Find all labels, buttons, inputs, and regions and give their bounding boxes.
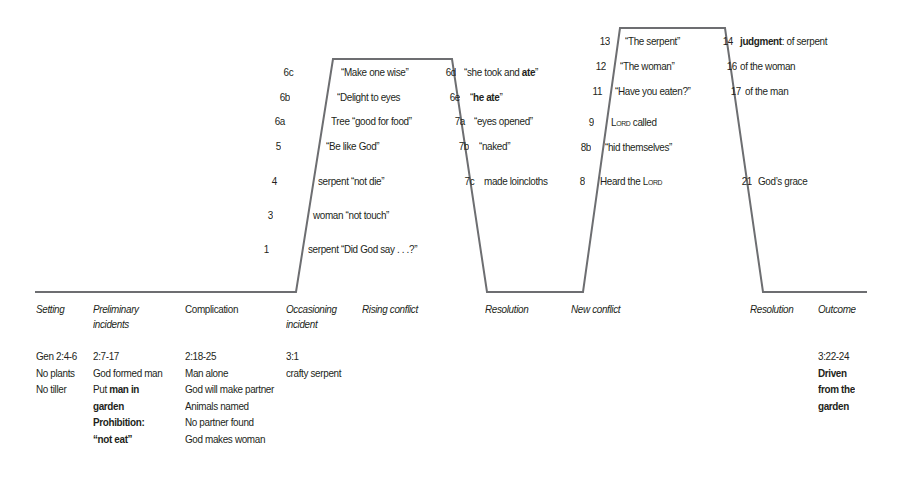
complication-line: God will make partner: [185, 381, 274, 398]
preliminary-line: “not eat”: [93, 431, 162, 448]
event-label: God’s grace: [758, 174, 807, 188]
occasioning-line: crafty serpent: [286, 365, 341, 382]
verse-number: 4: [272, 174, 277, 188]
verse-number: 13: [600, 34, 610, 48]
stage-occasioning-incident: Occasioning incident: [286, 302, 341, 332]
verse-number: 5: [276, 139, 281, 153]
stage-setting: Setting: [36, 302, 64, 317]
complication-line: God makes woman: [185, 431, 274, 448]
verse-number: 16: [727, 59, 737, 73]
verse-number: 7a: [455, 114, 465, 128]
verse-number: 14: [723, 34, 733, 48]
event-label: of the woman: [740, 59, 795, 73]
preliminary-ref: 2:7-17: [93, 348, 162, 365]
event-label: “he ate”: [470, 90, 502, 104]
verse-number: 6d: [446, 65, 456, 79]
setting-column: Gen 2:4-6 No plants No tiller: [36, 348, 77, 398]
event-label: Heard the Lord: [600, 174, 662, 188]
verse-number: 6b: [280, 90, 290, 104]
preliminary-line: Prohibition:: [93, 414, 162, 431]
verse-number: 12: [596, 59, 606, 73]
verse-number: 21: [742, 174, 752, 188]
event-label: “eyes opened”: [474, 114, 533, 128]
verse-number: 7c: [464, 174, 474, 188]
verse-number: 1: [264, 242, 269, 256]
event-label: “Have you eaten?”: [615, 84, 691, 98]
outcome-column: 3:22-24 Driven from the garden: [818, 348, 855, 414]
verse-number: 8b: [581, 140, 591, 154]
event-label: serpent “Did God say . . .?”: [308, 242, 417, 256]
stage-outcome: Outcome: [818, 302, 856, 317]
stage-complication: Complication: [185, 302, 238, 317]
occasioning-column: 3:1 crafty serpent: [286, 348, 341, 381]
event-label: “hid themselves”: [605, 140, 672, 154]
event-label: Lord called: [611, 115, 657, 129]
outcome-line: from the: [818, 381, 855, 398]
verse-number: 17: [731, 84, 741, 98]
event-label: of the man: [745, 84, 788, 98]
setting-ref: Gen 2:4-6: [36, 348, 77, 365]
occasioning-ref: 3:1: [286, 348, 341, 365]
outcome-line: garden: [818, 398, 855, 415]
event-label: “Make one wise”: [341, 65, 408, 79]
event-label: serpent “not die”: [318, 174, 384, 188]
event-label: “she took and ate”: [464, 65, 538, 79]
complication-line: Animals named: [185, 398, 274, 415]
complication-line: No partner found: [185, 414, 274, 431]
event-label: “The woman”: [620, 59, 674, 73]
stage-preliminary-incidents: Preliminary incidents: [93, 302, 146, 332]
verse-number: 3: [268, 208, 273, 222]
event-label: “Be like God”: [326, 139, 379, 153]
verse-number: 6c: [283, 65, 293, 79]
verse-number: 7b: [459, 139, 469, 153]
preliminary-line: garden: [93, 398, 162, 415]
stage-resolution-final: Resolution: [750, 302, 793, 317]
setting-line: No tiller: [36, 381, 77, 398]
stage-new-conflict: New conflict: [571, 302, 620, 317]
event-label: made loincloths: [484, 174, 548, 188]
preliminary-column: 2:7-17 God formed man Put man in garden …: [93, 348, 162, 447]
verse-number: 6a: [275, 114, 285, 128]
preliminary-line: Put man in: [93, 381, 162, 398]
event-label: judgment: of serpent: [740, 34, 827, 48]
stage-resolution: Resolution: [485, 302, 528, 317]
outcome-ref: 3:22-24: [818, 348, 855, 365]
event-label: “naked”: [479, 139, 510, 153]
setting-line: No plants: [36, 365, 77, 382]
verse-number: 9: [589, 115, 594, 129]
stage-rising-conflict: Rising conflict: [362, 302, 418, 317]
event-label: woman “not touch”: [313, 208, 389, 222]
verse-number: 11: [592, 84, 602, 98]
event-label: “Delight to eyes: [337, 90, 400, 104]
plot-structure-diagram: 6c “Make one wise” 6b “Delight to eyes 6…: [0, 0, 897, 498]
complication-ref: 2:18-25: [185, 348, 274, 365]
preliminary-line: God formed man: [93, 365, 162, 382]
outcome-line: Driven: [818, 365, 855, 382]
verse-number: 6e: [450, 90, 460, 104]
event-label: “The serpent”: [625, 34, 680, 48]
complication-column: 2:18-25 Man alone God will make partner …: [185, 348, 274, 447]
verse-number: 8: [580, 174, 585, 188]
complication-line: Man alone: [185, 365, 274, 382]
event-label: Tree “good for food”: [331, 114, 412, 128]
